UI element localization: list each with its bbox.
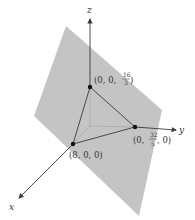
z-intercept-point	[88, 85, 92, 89]
svg-text:3: 3	[124, 79, 128, 86]
x-axis	[19, 144, 73, 198]
plane	[34, 26, 162, 216]
z-axis-label: z	[86, 5, 92, 15]
svg-text:, 0): , 0)	[157, 135, 171, 145]
diagram-canvas: z y x (0, 0, 16 3 ) (0, 32 5 , 0) (8, 0,…	[0, 0, 195, 220]
y-axis-label: y	[178, 125, 185, 135]
x-intercept-point	[71, 142, 75, 146]
svg-text:(0,: (0,	[133, 135, 144, 145]
x-intercept-label: (8, 0, 0)	[69, 150, 103, 160]
y-intercept-point	[133, 125, 137, 129]
svg-text:): )	[130, 75, 133, 85]
svg-text:5: 5	[151, 140, 155, 147]
x-axis-label: x	[9, 202, 14, 212]
svg-text:(0, 0,: (0, 0,	[94, 75, 116, 85]
